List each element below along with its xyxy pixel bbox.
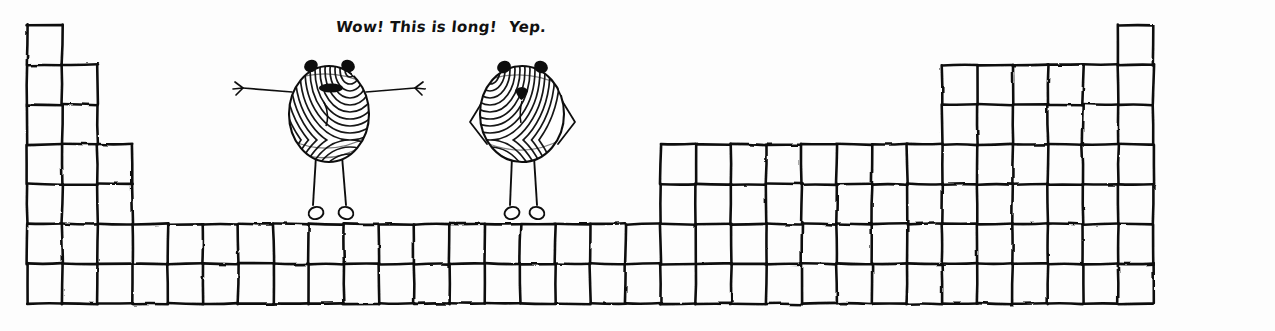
left-figure-legs [307,156,355,221]
periodic-table-drawing [0,0,1275,331]
right-figure [470,59,575,221]
caption-left: Wow! This is long! [335,18,498,36]
periodic-table-grid [27,24,1155,304]
left-figure [233,58,425,221]
caption-right: Yep. [508,18,547,36]
cartoon-canvas: Wow! This is long! Yep. [0,0,1275,331]
right-figure-legs [503,157,546,221]
